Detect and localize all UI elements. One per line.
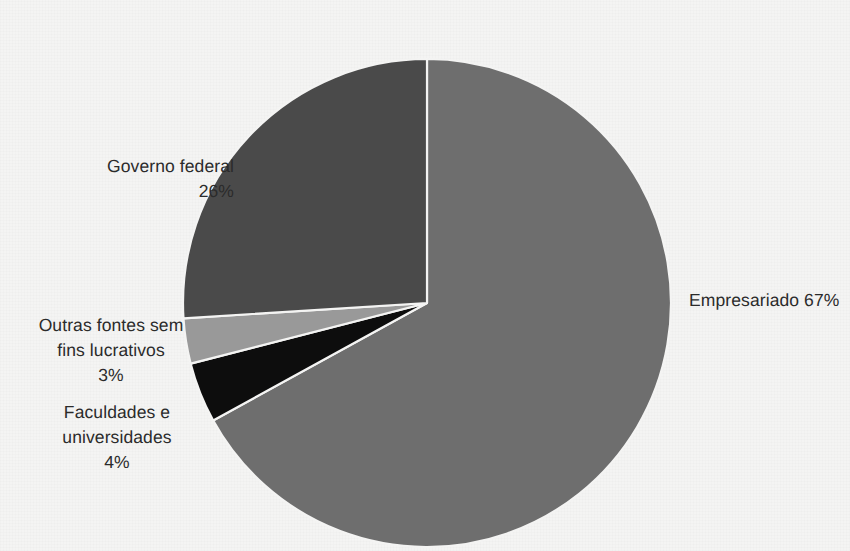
pie-slice-group	[183, 59, 671, 547]
pie-label-governo-federal: Governo federal 26%	[14, 154, 234, 204]
pie-label-faculdades-e-universidades: Faculdades e universidades 4%	[14, 400, 220, 475]
pie-chart-figure: Governo federal 26% Outras fontes sem fi…	[0, 0, 850, 551]
pie-label-empresariado: Empresariado 67%	[689, 288, 850, 313]
pie-label-outras-fontes-sem-fins-lucrativos: Outras fontes sem fins lucrativos 3%	[2, 313, 220, 388]
